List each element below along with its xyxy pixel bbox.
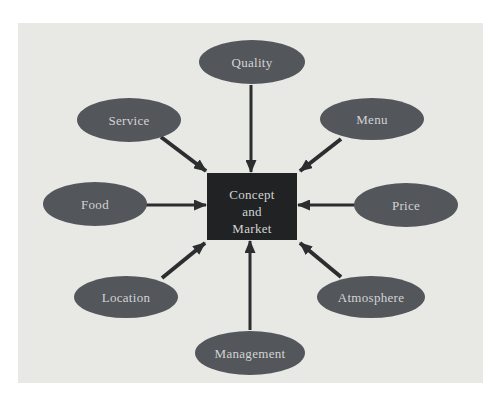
node-label-food: Food: [81, 197, 109, 212]
node-price: Price: [354, 183, 458, 227]
center-label-line-2: and: [242, 204, 262, 219]
node-label-location: Location: [102, 290, 151, 305]
center-label-line-1: Concept: [229, 187, 275, 202]
node-label-quality: Quality: [231, 55, 272, 70]
node-food: Food: [43, 182, 147, 226]
node-menu: Menu: [320, 98, 424, 140]
node-service: Service: [77, 98, 181, 142]
node-label-service: Service: [108, 113, 149, 128]
node-label-menu: Menu: [356, 112, 388, 127]
center-label-line-3: Market: [232, 221, 271, 236]
node-location: Location: [74, 276, 178, 318]
node-label-management: Management: [215, 346, 286, 361]
node-label-atmosphere: Atmosphere: [338, 290, 405, 305]
center-node: ConceptandMarket: [207, 173, 297, 240]
node-quality: Quality: [199, 40, 305, 84]
node-atmosphere: Atmosphere: [317, 276, 425, 318]
diagram-page: QualityMenuPriceAtmosphereManagementLoca…: [0, 0, 501, 403]
node-management: Management: [195, 331, 305, 375]
hub-spoke-diagram: QualityMenuPriceAtmosphereManagementLoca…: [0, 0, 501, 403]
node-label-price: Price: [392, 198, 420, 213]
